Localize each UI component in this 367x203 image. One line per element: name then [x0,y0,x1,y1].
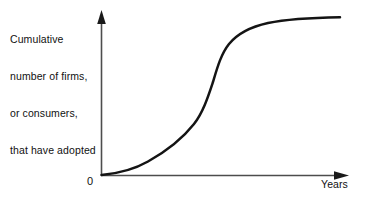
x-axis-label: Years [321,178,348,191]
y-axis-label: Cumulative number of firms, or consumers… [10,8,96,182]
diffusion-curve-figure: Cumulative number of firms, or consumers… [0,0,367,203]
y-axis-label-line-2: number of firms, [10,70,96,82]
adoption-s-curve [102,17,341,175]
y-axis-label-line-4: that have adopted [10,144,96,156]
y-axis-label-line-3: or consumers, [10,107,96,119]
y-axis-arrow-icon [97,10,106,24]
y-axis-label-line-1: Cumulative [10,33,96,45]
origin-label: 0 [87,175,93,188]
